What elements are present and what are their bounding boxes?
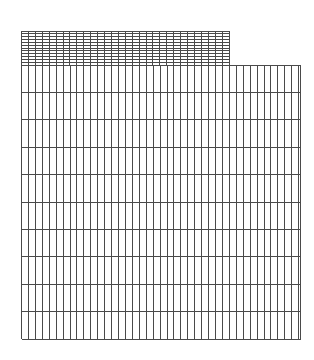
grid-drawing [0,0,314,360]
grid-diagram [0,0,314,360]
